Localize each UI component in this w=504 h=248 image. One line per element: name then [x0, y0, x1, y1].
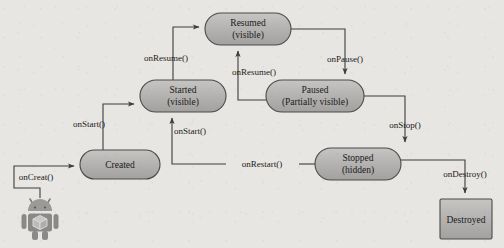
edge-label-onrestart: onRestart() [242, 159, 283, 169]
state-diagram: Resumed (visible) Started (visible) Paus… [0, 0, 504, 248]
node-destroyed-label-1: Destroyed [446, 215, 485, 225]
edge-label-onpause: onPause() [327, 54, 363, 64]
node-started-label-2: (visible) [167, 97, 199, 108]
node-resumed[interactable]: Resumed (visible) [205, 13, 291, 45]
edge-label-onstart: onStart() [73, 119, 105, 129]
node-resumed-label-1: Resumed [230, 18, 266, 28]
edge-oncreate [14, 166, 74, 198]
edge-label-oncreate: onCreat() [19, 172, 53, 182]
cube-emblem [33, 216, 47, 230]
node-paused[interactable]: Paused (Partially visible) [266, 80, 364, 112]
node-started-label-1: Started [170, 85, 197, 95]
node-stopped[interactable]: Stopped (hidden) [315, 148, 401, 180]
node-started[interactable]: Started (visible) [140, 80, 226, 112]
android-robot-icon[interactable] [22, 199, 59, 240]
edge-label-onresume: onResume() [144, 53, 188, 63]
edge-onstop [364, 96, 405, 142]
edge-onstart [103, 104, 134, 150]
edge-onpause [291, 29, 345, 74]
edge-label-ondestroy: onDestroy() [443, 169, 487, 179]
diagram-canvas: Resumed (visible) Started (visible) Paus… [0, 0, 504, 248]
node-created-label-1: Created [105, 160, 135, 170]
node-paused-label-1: Paused [302, 85, 329, 95]
node-resumed-label-2: (visible) [232, 30, 264, 41]
edge-label-onstart-2: onStart() [174, 126, 206, 136]
node-stopped-label-2: (hidden) [342, 165, 374, 176]
edge-label-onresume-2: onResume() [232, 67, 276, 77]
node-stopped-label-1: Stopped [342, 153, 373, 163]
node-paused-label-2: (Partially visible) [282, 97, 348, 108]
node-created[interactable]: Created [80, 150, 160, 179]
node-destroyed[interactable]: Destroyed [440, 199, 492, 239]
edge-label-onstop: onStop() [389, 120, 421, 130]
node-layer: Resumed (visible) Started (visible) Paus… [80, 13, 492, 239]
